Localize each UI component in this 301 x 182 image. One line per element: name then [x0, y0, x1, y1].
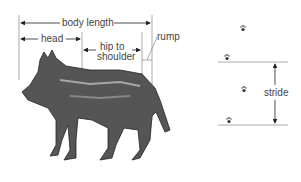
label-stride: stride — [264, 88, 288, 98]
diagram-canvas — [0, 0, 301, 182]
paw-print-icon — [224, 54, 229, 60]
paw-print-icon — [226, 117, 231, 123]
label-rump: rump — [157, 32, 180, 42]
paw-prints — [224, 25, 246, 123]
paw-print-icon — [240, 25, 245, 31]
label-head: head — [41, 34, 63, 44]
label-body-length: body length — [62, 18, 114, 28]
label-shoulder: shoulder — [97, 52, 135, 62]
wolf-illustration — [22, 50, 170, 160]
paw-print-icon — [241, 86, 246, 92]
